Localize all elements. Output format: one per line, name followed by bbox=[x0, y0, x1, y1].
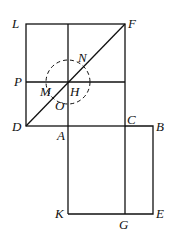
square-abek bbox=[68, 126, 153, 214]
label-H: H bbox=[69, 84, 80, 99]
label-F: F bbox=[127, 16, 137, 31]
label-G: G bbox=[119, 217, 129, 232]
label-N: N bbox=[77, 50, 88, 65]
geometry-diagram: L F P M N H O D A C B K G E bbox=[0, 0, 177, 241]
label-E: E bbox=[155, 206, 164, 221]
label-O: O bbox=[55, 98, 65, 113]
label-M: M bbox=[39, 84, 52, 99]
label-A: A bbox=[56, 128, 65, 143]
label-B: B bbox=[156, 119, 164, 134]
diagonal-df bbox=[26, 24, 125, 126]
label-C: C bbox=[127, 112, 136, 127]
label-K: K bbox=[54, 206, 65, 221]
label-P: P bbox=[13, 74, 22, 89]
label-L: L bbox=[11, 16, 19, 31]
label-D: D bbox=[11, 119, 22, 134]
